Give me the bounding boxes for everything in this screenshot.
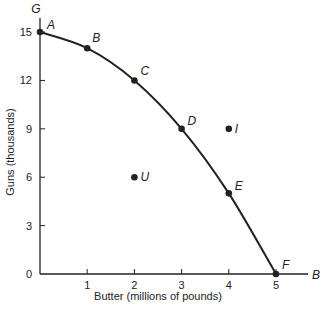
curve-point — [273, 271, 280, 278]
x-tick-label: 4 — [226, 279, 232, 291]
point-label-d: D — [188, 114, 197, 128]
y-tick-label: 6 — [26, 171, 32, 183]
y-axis-end-label: G — [31, 2, 40, 16]
y-tick-label: 3 — [26, 220, 32, 232]
axes — [40, 18, 308, 274]
point-label-e: E — [235, 179, 244, 193]
y-tick-label: 0 — [26, 268, 32, 280]
point-i — [226, 126, 233, 133]
point-label-u: U — [140, 170, 149, 184]
x-axis-end-label: B — [312, 268, 320, 282]
curve-point — [226, 190, 233, 197]
x-tick-label: 5 — [273, 279, 279, 291]
production-possibilities-chart: 1234503691215 ABCDEFIU Butter (millions … — [0, 0, 326, 311]
axis-ticks: 1234503691215 — [20, 26, 279, 291]
chart-canvas: 1234503691215 ABCDEFIU Butter (millions … — [0, 0, 326, 311]
ppf-curve — [40, 32, 276, 274]
curve-point — [131, 77, 138, 84]
point-u — [131, 174, 138, 181]
curve-point — [37, 29, 44, 36]
y-tick-label: 15 — [20, 26, 32, 38]
ppf-curve-path — [40, 32, 276, 274]
curve-point — [84, 45, 91, 52]
y-tick-label: 12 — [20, 74, 32, 86]
x-tick-label: 1 — [84, 279, 90, 291]
curve-point — [178, 126, 185, 133]
data-points: ABCDEFIU — [37, 18, 290, 277]
point-label-f: F — [282, 258, 290, 272]
y-tick-label: 9 — [26, 123, 32, 135]
point-label-b: B — [92, 31, 100, 45]
point-label-c: C — [140, 64, 149, 78]
point-label-i: I — [235, 122, 239, 136]
y-axis-title: Guns (thousands) — [4, 108, 16, 195]
x-axis-title: Butter (millions of pounds) — [94, 290, 222, 302]
point-label-a: A — [46, 18, 55, 32]
